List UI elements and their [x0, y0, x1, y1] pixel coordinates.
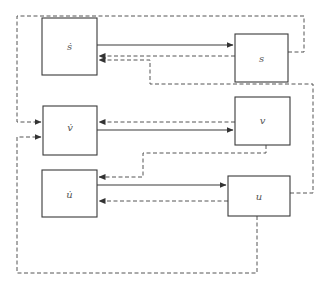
node-s: s — [235, 34, 288, 82]
node-u-label: u — [256, 191, 262, 202]
node-v-label: v — [260, 115, 266, 126]
feedback-v-to-udot — [99, 145, 266, 177]
node-u: u — [228, 176, 290, 216]
node-s-dot: ṡ — [42, 18, 97, 75]
node-u-dot: u̇ — [42, 170, 97, 217]
node-s-label: s — [259, 53, 264, 64]
block-diagram: ṡ s v̇ v u̇ u — [0, 0, 329, 289]
node-s-dot-label: ṡ — [67, 41, 72, 52]
node-v-dot-label: v̇ — [67, 122, 73, 133]
node-u-dot-label: u̇ — [66, 189, 72, 200]
node-v: v — [235, 97, 290, 145]
node-v-dot: v̇ — [43, 106, 97, 155]
